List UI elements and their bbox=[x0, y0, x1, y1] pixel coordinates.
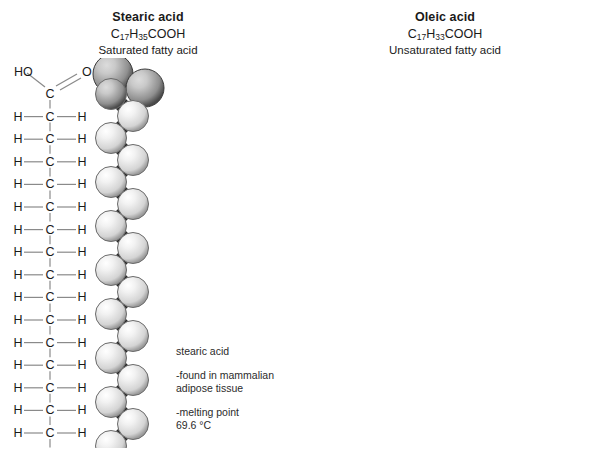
label-hydrogen: H bbox=[77, 290, 86, 304]
label-hydrogen: H bbox=[77, 336, 86, 350]
panel-oleic-acid: Oleic acid C17H33COOH Unsaturated fatty … bbox=[297, 0, 593, 451]
header-stearic: Stearic acid C17H35COOH Saturated fatty … bbox=[0, 10, 296, 56]
label-carbon: C bbox=[45, 426, 54, 440]
bond-c-o-a bbox=[56, 74, 77, 86]
label-carbon: C bbox=[45, 132, 54, 146]
panel-stearic-acid: Stearic acid C17H35COOH Saturated fatty … bbox=[0, 0, 296, 451]
formula-part: H bbox=[426, 27, 435, 41]
formula-part: H bbox=[129, 27, 138, 41]
label-hydrogen: H bbox=[77, 358, 86, 372]
label-hydrogen: H bbox=[77, 245, 86, 259]
label-hydrogen: H bbox=[13, 223, 22, 237]
annotation-block: -found in mammalianadipose tissue bbox=[176, 369, 288, 395]
label-carbon: C bbox=[45, 110, 54, 124]
formula-part: C bbox=[111, 27, 120, 41]
label-hydrogen: H bbox=[13, 426, 22, 440]
label-hydrogen: H bbox=[77, 132, 86, 146]
formula-oleic: C17H33COOH bbox=[297, 27, 593, 42]
title-stearic: Stearic acid bbox=[0, 10, 296, 24]
formula-sub: 35 bbox=[138, 32, 147, 42]
label-hydrogen: H bbox=[13, 200, 22, 214]
label-hydrogen: H bbox=[13, 358, 22, 372]
label-carbon: C bbox=[45, 268, 54, 282]
label-carbon: C bbox=[45, 155, 54, 169]
annotation-line: -found in mammalian bbox=[176, 369, 288, 382]
space-filling-model-stearic bbox=[88, 58, 184, 448]
label-hydrogen: H bbox=[13, 177, 22, 191]
label-hydrogen: H bbox=[77, 155, 86, 169]
annotation-block: stearic acid bbox=[176, 345, 288, 358]
annotation-line: 69.6 °C bbox=[176, 419, 288, 432]
label-carbon: C bbox=[45, 358, 54, 372]
label-carbon: C bbox=[45, 245, 54, 259]
label-hydrogen: H bbox=[13, 336, 22, 350]
label-hydrogen: H bbox=[77, 426, 86, 440]
label-carbon: C bbox=[45, 87, 54, 101]
label-hydrogen: H bbox=[13, 110, 22, 124]
label-hydrogen: H bbox=[13, 132, 22, 146]
label-hydrogen: H bbox=[77, 313, 86, 327]
annotation-line: -melting point bbox=[176, 406, 288, 419]
label-hydrogen: H bbox=[77, 403, 86, 417]
label-hydrogen: H bbox=[77, 381, 86, 395]
structural-formula-stearic: HOOCCHHCHHCHHCHHCHHCHHCHHCHHCHHCHHCHHCHH… bbox=[4, 58, 96, 448]
header-oleic: Oleic acid C17H33COOH Unsaturated fatty … bbox=[297, 10, 593, 56]
label-hydrogen: H bbox=[13, 381, 22, 395]
formula-sub: 17 bbox=[120, 32, 129, 42]
label-hydrogen: H bbox=[77, 200, 86, 214]
label-hydrogen: H bbox=[13, 403, 22, 417]
label-hydrogen: H bbox=[77, 110, 86, 124]
formula-sub: 17 bbox=[417, 32, 426, 42]
formula-part: COOH bbox=[148, 27, 186, 41]
annotation-line: stearic acid bbox=[176, 345, 288, 358]
label-hydrogen: H bbox=[13, 245, 22, 259]
label-carbon: C bbox=[45, 381, 54, 395]
annotation-line: adipose tissue bbox=[176, 382, 288, 395]
label-hydrogen: H bbox=[13, 155, 22, 169]
label-carbon: C bbox=[45, 200, 54, 214]
bond-c-o-b bbox=[60, 78, 81, 90]
label-hydroxyl: HO bbox=[14, 65, 33, 79]
subtitle-stearic: Saturated fatty acid bbox=[0, 44, 296, 56]
label-hydrogen: H bbox=[77, 268, 86, 282]
subtitle-oleic: Unsaturated fatty acid bbox=[297, 44, 593, 56]
label-hydrogen: H bbox=[77, 177, 86, 191]
annotations-stearic: stearic acid-found in mammalianadipose t… bbox=[176, 345, 288, 432]
label-carbon: C bbox=[45, 290, 54, 304]
label-carbon: C bbox=[45, 223, 54, 237]
label-carbon: C bbox=[45, 177, 54, 191]
label-carbon: C bbox=[45, 403, 54, 417]
formula-stearic: C17H35COOH bbox=[0, 27, 296, 42]
annotation-block: -melting point69.6 °C bbox=[176, 406, 288, 432]
label-hydrogen: H bbox=[13, 290, 22, 304]
label-hydrogen: H bbox=[13, 313, 22, 327]
label-hydrogen: H bbox=[77, 223, 86, 237]
title-oleic: Oleic acid bbox=[297, 10, 593, 24]
label-carbon: C bbox=[45, 313, 54, 327]
formula-sub: 33 bbox=[435, 32, 444, 42]
label-carbon: C bbox=[45, 336, 54, 350]
label-hydrogen: H bbox=[13, 268, 22, 282]
formula-part: COOH bbox=[445, 27, 483, 41]
formula-part: C bbox=[408, 27, 417, 41]
